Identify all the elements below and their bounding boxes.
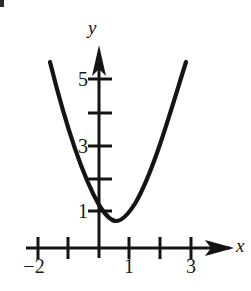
parabola-figure: y x −2 1 3 1 3 5: [0, 0, 251, 291]
x-tick-label-1: 1: [118, 256, 140, 276]
y-tick-label-1: 1: [70, 201, 88, 221]
y-tick-label-3: 3: [70, 136, 88, 156]
y-tick-label-5: 5: [70, 69, 88, 89]
x-tick-label-neg2: −2: [14, 256, 54, 276]
x-tick-label-3: 3: [180, 256, 202, 276]
graph-canvas: [0, 0, 251, 291]
x-axis-label: x: [236, 236, 244, 255]
y-axis-label: y: [88, 18, 96, 37]
